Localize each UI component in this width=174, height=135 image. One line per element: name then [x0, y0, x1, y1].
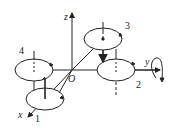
diagram-canvas [0, 0, 174, 135]
rotor-3-label: 3 [125, 21, 130, 31]
rotor-4-label: 4 [19, 46, 24, 56]
y-axis-label: y [145, 57, 149, 67]
origin-label: O [68, 74, 75, 84]
quadrotor-diagram: z y x O 3 2 4 1 [0, 0, 174, 135]
arm-3 [72, 47, 95, 70]
rotor-4 [15, 51, 53, 92]
z-axis-label: z [64, 12, 68, 22]
rotor-2 [97, 50, 160, 97]
rotor-2-label: 2 [136, 80, 141, 90]
x-axis-label: x [18, 110, 22, 120]
rotor-1-label: 1 [35, 114, 40, 124]
